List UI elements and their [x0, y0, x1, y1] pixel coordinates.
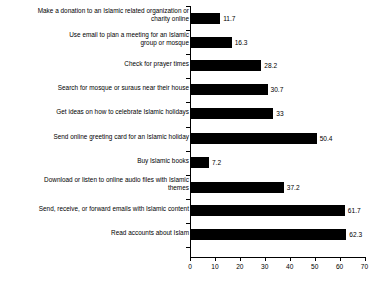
y-axis-tick: [186, 199, 190, 200]
x-axis-tick: [240, 258, 241, 261]
x-axis-tick-label: 20: [230, 262, 250, 271]
x-axis-tick-label: 10: [205, 262, 225, 271]
y-axis-tick: [186, 175, 190, 176]
x-axis-tick: [215, 258, 216, 261]
y-axis-tick: [186, 54, 190, 55]
bar-row: Get ideas on how to celebrate Islamic ho…: [0, 103, 386, 127]
category-label: Use email to plan a meeting for an Islam…: [13, 31, 189, 48]
bar: [191, 108, 273, 119]
category-label: Buy Islamic books: [13, 157, 189, 165]
bar-value-label: 33: [276, 108, 283, 119]
bar-row: Check for prayer times28.2: [0, 55, 386, 79]
bar-row: Download or listen to online audio files…: [0, 176, 386, 200]
category-label-line: Read accounts about Islam: [13, 229, 189, 237]
y-axis-line: [190, 6, 191, 258]
bar-value-label: 37.2: [287, 182, 300, 193]
bar-value-label: 7.2: [212, 157, 221, 168]
y-axis-tick: [186, 102, 190, 103]
bar-row: Use email to plan a meeting for an Islam…: [0, 31, 386, 55]
bar: [191, 229, 346, 240]
x-axis-tick: [290, 258, 291, 261]
bar: [191, 60, 261, 71]
x-axis-tick: [190, 258, 191, 261]
category-label: Make a donation to an Islamic related or…: [13, 7, 189, 24]
category-label-line: Make a donation to an Islamic related or…: [13, 7, 189, 15]
category-label: Read accounts about Islam: [13, 229, 189, 237]
x-axis-tick-label: 30: [255, 262, 275, 271]
x-axis-tick: [265, 258, 266, 261]
y-axis-tick: [186, 247, 190, 248]
bar-value-label: 62.3: [349, 229, 362, 240]
bar-row: Read accounts about Islam62.3: [0, 224, 386, 248]
category-label-line: Use email to plan a meeting for an Islam…: [13, 31, 189, 39]
category-label-line: Send, receive, or forward emails with Is…: [13, 205, 189, 213]
category-label-line: themes: [13, 184, 189, 192]
category-label-line: group or mosque: [13, 39, 189, 47]
category-label: Search for mosque or suraus near their h…: [13, 84, 189, 92]
category-label: Send, receive, or forward emails with Is…: [13, 205, 189, 213]
category-label: Get ideas on how to celebrate Islamic ho…: [13, 108, 189, 116]
category-label: Send online greeting card for an Islamic…: [13, 133, 189, 141]
bar-row: Buy Islamic books7.2: [0, 152, 386, 176]
y-axis-tick: [186, 78, 190, 79]
bar-value-label: 16.3: [235, 37, 248, 48]
category-label-line: Send online greeting card for an Islamic…: [13, 133, 189, 141]
x-axis-tick: [315, 258, 316, 261]
bar-value-label: 28.2: [264, 60, 277, 71]
x-axis-tick-label: 0: [180, 262, 200, 271]
bar-row: Send, receive, or forward emails with Is…: [0, 200, 386, 224]
y-axis-tick: [186, 6, 190, 7]
bar: [191, 182, 284, 193]
x-axis-tick: [365, 258, 366, 261]
bar-value-label: 30.7: [271, 84, 284, 95]
bar-value-label: 61.7: [348, 205, 361, 216]
x-axis-tick-label: 70: [355, 262, 375, 271]
y-axis-tick: [186, 30, 190, 31]
y-axis-tick: [186, 127, 190, 128]
x-axis-tick: [340, 258, 341, 261]
bar: [191, 157, 209, 168]
bar-chart: Make a donation to an Islamic related or…: [0, 0, 386, 281]
bar: [191, 37, 232, 48]
bar-row: Search for mosque or suraus near their h…: [0, 79, 386, 103]
bar-row: Send online greeting card for an Islamic…: [0, 128, 386, 152]
plot-area: Make a donation to an Islamic related or…: [0, 0, 386, 281]
y-axis-tick: [186, 223, 190, 224]
bar: [191, 13, 220, 24]
y-axis-tick: [186, 151, 190, 152]
x-axis-tick-label: 40: [280, 262, 300, 271]
x-axis-tick-label: 60: [330, 262, 350, 271]
category-label-line: charity online: [13, 15, 189, 23]
bar: [191, 205, 345, 216]
category-label-line: Get ideas on how to celebrate Islamic ho…: [13, 108, 189, 116]
bar-row: Make a donation to an Islamic related or…: [0, 7, 386, 31]
bar-value-label: 50.4: [320, 133, 333, 144]
category-label-line: Buy Islamic books: [13, 157, 189, 165]
category-label-line: Check for prayer times: [13, 60, 189, 68]
bar-value-label: 11.7: [223, 13, 235, 24]
category-label-line: Download or listen to online audio files…: [13, 176, 189, 184]
x-axis-tick-label: 50: [305, 262, 325, 271]
category-label: Check for prayer times: [13, 60, 189, 68]
bar: [191, 133, 317, 144]
category-label-line: Search for mosque or suraus near their h…: [13, 84, 189, 92]
category-label: Download or listen to online audio files…: [13, 176, 189, 193]
bar: [191, 84, 268, 95]
